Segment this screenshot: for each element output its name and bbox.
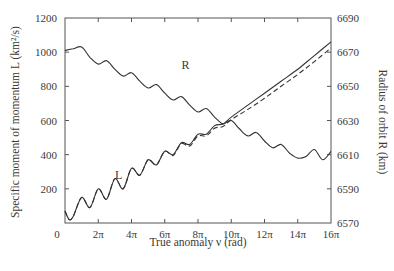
x-tick-label: 16π [323,228,340,240]
curve-label-r: R [181,58,189,72]
curve-label-l: L [115,168,122,182]
y-axis-right-title: Radius of orbit R (km) [376,70,389,175]
x-tick-label: 2π [93,228,105,240]
y-tick-label: 200 [41,183,58,195]
x-axis-title: True anomaly ν (rad) [149,236,246,249]
y-right-tick-label: 6610 [337,149,360,161]
y-right-tick-label: 6590 [337,183,360,195]
y-right-tick-label: 6670 [337,46,360,58]
y-axis-right-ticks: 6570659066106630665066706690 [327,12,360,229]
curve-labels: LR [115,58,190,181]
y-axis-left-ticks: 20040060080010001200 [35,12,69,195]
x-axis-ticks: 02π4π6π8π10π12π14π16π [54,18,339,240]
y-right-tick-label: 6630 [337,115,360,127]
l-solid-curve [65,42,331,220]
y-right-tick-label: 6650 [337,80,360,92]
x-tick-label: 12π [256,228,273,240]
y-tick-label: 800 [41,80,58,92]
chart: 02π4π6π8π10π12π14π16π 200400600800100012… [0,0,394,271]
y-tick-label: 600 [41,115,58,127]
y-right-tick-label: 6690 [337,12,360,24]
y-axis-left-title: Specific moment of momentum L (km²/s) [9,26,22,218]
plot-frame [65,18,331,223]
y-right-tick-label: 6570 [337,217,360,229]
x-tick-label: 14π [289,228,306,240]
r-curve [65,47,331,160]
x-tick-label: 0 [54,228,60,240]
x-tick-label: 4π [126,228,138,240]
y-tick-label: 400 [41,149,58,161]
y-tick-label: 1000 [35,46,58,58]
y-tick-label: 1200 [35,12,58,24]
plot-series [65,42,331,220]
